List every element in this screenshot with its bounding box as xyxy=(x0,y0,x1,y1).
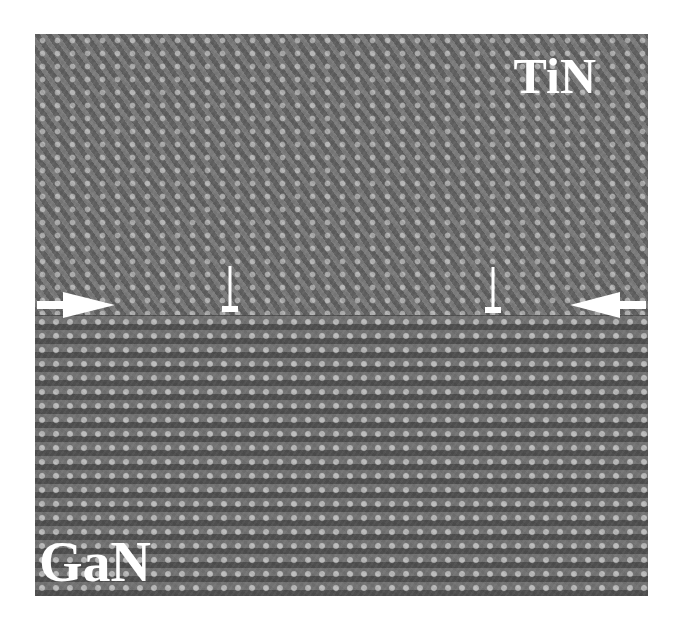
dislocation-symbol-icon xyxy=(222,266,238,314)
gan-label: GaN xyxy=(39,534,151,590)
interface-arrow-left-icon xyxy=(570,292,646,318)
interface-arrow-right-icon xyxy=(37,292,115,318)
dislocation-symbol-icon xyxy=(485,267,501,315)
image-noise-texture xyxy=(35,34,648,596)
tin-label: TiN xyxy=(514,51,596,101)
hrtem-micrograph: TiN GaN xyxy=(35,34,648,596)
